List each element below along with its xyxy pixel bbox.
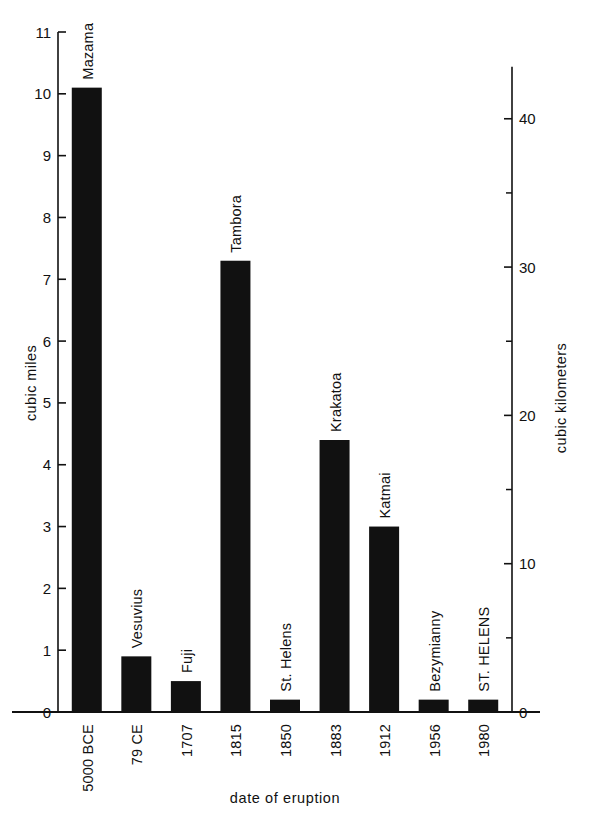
y2-axis-title: cubic kilometers [553, 343, 569, 453]
bar [270, 700, 300, 712]
x-category-label: 5000 BCE [80, 724, 96, 792]
bar [72, 88, 102, 712]
bar [468, 700, 498, 712]
left-axis-tick-label: 4 [43, 456, 51, 473]
x-category-label: 79 CE [129, 724, 145, 765]
bar-value-label: Katmai [377, 472, 393, 518]
bar-value-label: Krakatoa [328, 372, 344, 432]
left-axis-tick-label: 3 [43, 518, 51, 535]
left-axis-tick-label: 7 [43, 271, 51, 288]
x-axis-title: date of eruption [230, 790, 340, 806]
right-axis-tick-label: 10 [519, 555, 536, 572]
left-axis-tick-label: 5 [43, 394, 51, 411]
bar [220, 261, 250, 712]
x-category-label: 1912 [377, 724, 393, 757]
left-axis-tick-label: 8 [43, 209, 51, 226]
right-axis-tick-label: 20 [519, 407, 536, 424]
x-category-label: 1707 [179, 724, 195, 757]
bar-value-label: Bezymianny [427, 610, 443, 692]
y-axis-title: cubic miles [23, 345, 39, 421]
bar [171, 681, 201, 712]
bar-value-label: Tambora [228, 194, 244, 253]
right-axis-tick-label: 30 [519, 259, 536, 276]
bar [369, 527, 399, 712]
bar-value-label: ST. HELENS [476, 607, 492, 692]
bar [320, 440, 350, 712]
left-axis-tick-label: 6 [43, 333, 51, 350]
left-axis-tick-label: 1 [43, 642, 51, 659]
bar [121, 656, 151, 712]
left-axis-tick-label: 2 [43, 580, 51, 597]
bar-value-label: Fuji [179, 649, 195, 673]
x-category-label: 1883 [328, 724, 344, 757]
left-axis-tick-label: 10 [34, 85, 51, 102]
x-category-label: 1980 [476, 724, 492, 757]
x-category-label: 1956 [427, 724, 443, 757]
chart-canvas: 01234567891011 010203040 MazamaVesuviusF… [0, 0, 594, 821]
left-axis-tick-label: 11 [35, 24, 51, 41]
bar-value-label: Mazama [80, 22, 96, 80]
bar-value-label: St. Helens [278, 623, 294, 692]
volcano-eruption-volume-chart: 01234567891011 010203040 MazamaVesuviusF… [0, 0, 594, 821]
right-axis-tick-label: 40 [519, 110, 536, 127]
bar [419, 700, 449, 712]
bar-value-label: Vesuvius [129, 589, 145, 649]
x-category-label: 1815 [228, 724, 244, 757]
left-axis-tick-label: 9 [43, 147, 51, 164]
x-category-label: 1850 [278, 724, 294, 757]
